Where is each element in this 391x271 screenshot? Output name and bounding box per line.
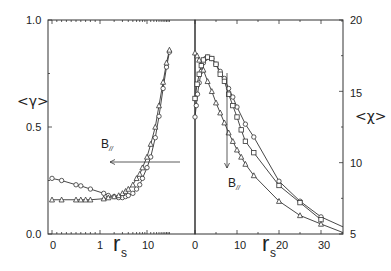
triangle-marker bbox=[205, 79, 210, 84]
triangle-marker bbox=[164, 60, 169, 65]
right-y-axis-label: <χ> bbox=[355, 108, 387, 124]
triangle-marker bbox=[148, 141, 153, 146]
left-x-axis-subscript: s bbox=[121, 246, 127, 260]
triangle-marker bbox=[222, 120, 227, 125]
circle-marker bbox=[153, 136, 157, 140]
triangle-marker bbox=[137, 171, 142, 176]
circles-curve bbox=[195, 57, 321, 217]
circle-marker bbox=[194, 103, 198, 107]
triangle-marker bbox=[130, 182, 135, 187]
left-b-arrow-annotation: B // bbox=[101, 137, 180, 165]
circle-marker bbox=[157, 114, 161, 118]
left-ytick-0.0: 0.0 bbox=[26, 228, 41, 240]
square-marker bbox=[239, 128, 243, 132]
left-y-axis-label: <γ> bbox=[17, 93, 49, 109]
square-marker bbox=[243, 139, 247, 143]
squares-curve bbox=[195, 57, 321, 220]
left-x-axis-label: r bbox=[113, 231, 120, 256]
chart-figure: 1.0 0.5 0.0 <γ> 20 15 10 5 <χ> 0 1 10 0 … bbox=[0, 0, 391, 271]
square-marker bbox=[201, 58, 205, 62]
square-marker bbox=[205, 55, 209, 59]
square-marker bbox=[199, 63, 203, 67]
right-ytick-10: 10 bbox=[350, 157, 362, 169]
triangles-curve bbox=[52, 50, 169, 200]
triangle-marker bbox=[239, 154, 244, 159]
right-xtick-30: 30 bbox=[318, 239, 330, 251]
square-marker bbox=[193, 96, 197, 100]
circle-marker bbox=[164, 65, 168, 69]
circle-marker bbox=[138, 183, 142, 187]
data-markers bbox=[50, 47, 324, 226]
triangle-marker bbox=[218, 110, 223, 115]
circle-marker bbox=[161, 86, 165, 90]
right-xtick-20: 20 bbox=[276, 239, 288, 251]
circle-marker bbox=[140, 176, 144, 180]
circle-marker bbox=[195, 92, 199, 96]
triangle-marker bbox=[209, 89, 214, 94]
left-ytick-1.0: 1.0 bbox=[26, 14, 41, 26]
circle-marker bbox=[102, 191, 106, 195]
circle-marker bbox=[231, 95, 235, 99]
square-marker bbox=[218, 72, 222, 76]
circle-marker bbox=[59, 178, 63, 182]
left-b-subscript: // bbox=[108, 145, 114, 152]
square-marker bbox=[214, 62, 218, 66]
circle-marker bbox=[50, 176, 54, 180]
circle-marker bbox=[88, 187, 92, 191]
left-ytick-0.5: 0.5 bbox=[26, 121, 41, 133]
circle-marker bbox=[145, 165, 149, 169]
right-b-subscript: // bbox=[235, 184, 241, 191]
left-b-label: B bbox=[101, 137, 109, 151]
square-marker bbox=[210, 56, 214, 60]
left-xtick-1: 1 bbox=[97, 239, 103, 251]
circle-marker bbox=[131, 191, 135, 195]
circle-marker bbox=[134, 187, 138, 191]
square-marker bbox=[298, 200, 302, 204]
square-marker bbox=[195, 82, 199, 86]
right-ytick-15: 15 bbox=[350, 87, 362, 99]
circle-marker bbox=[252, 135, 256, 139]
right-b-arrow-annotation: B // bbox=[225, 73, 241, 191]
right-ytick-20: 20 bbox=[350, 14, 362, 26]
right-ytick-5: 5 bbox=[350, 228, 356, 240]
square-marker bbox=[235, 115, 239, 119]
right-b-label: B bbox=[228, 176, 236, 190]
circle-marker bbox=[277, 179, 281, 183]
triangle-marker bbox=[230, 139, 235, 144]
triangle-marker bbox=[167, 47, 172, 52]
triangle-marker bbox=[243, 161, 248, 166]
triangle-marker bbox=[214, 100, 219, 105]
square-marker bbox=[277, 183, 281, 187]
right-x-axis-subscript: s bbox=[270, 246, 276, 260]
left-xtick-10: 10 bbox=[142, 239, 154, 251]
triangle-marker bbox=[298, 213, 303, 218]
circle-marker bbox=[126, 193, 130, 197]
square-marker bbox=[197, 72, 201, 76]
circles-curve bbox=[52, 52, 169, 198]
right-xtick-10: 10 bbox=[234, 239, 246, 251]
square-marker bbox=[252, 150, 256, 154]
triangle-marker bbox=[140, 165, 145, 170]
circle-marker bbox=[193, 115, 197, 119]
circle-marker bbox=[243, 122, 247, 126]
square-marker bbox=[222, 79, 226, 83]
right-xtick-0: 0 bbox=[192, 239, 198, 251]
triangle-marker bbox=[235, 147, 240, 152]
circle-marker bbox=[74, 183, 78, 187]
right-x-axis-label: r bbox=[262, 231, 269, 256]
triangles-curve bbox=[195, 53, 321, 224]
circle-marker bbox=[79, 184, 83, 188]
left-xtick-0: 0 bbox=[50, 239, 56, 251]
square-marker bbox=[231, 103, 235, 107]
circle-marker bbox=[235, 105, 239, 109]
